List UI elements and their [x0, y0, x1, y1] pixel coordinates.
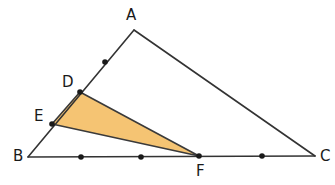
vertex-label-e: E: [34, 109, 43, 124]
geometry-figure: A B C D E F: [0, 0, 335, 185]
point-marker-bc-tick-1: [78, 154, 84, 160]
point-marker-e: [49, 121, 55, 127]
geometry-canvas: [0, 0, 335, 185]
point-marker-bc-tick-2: [138, 154, 144, 160]
vertex-label-d: D: [62, 75, 74, 90]
vertex-label-c: C: [320, 149, 330, 164]
vertex-label-f: F: [196, 164, 205, 179]
point-marker-ab-tick: [102, 59, 108, 65]
segment-bc: [28, 156, 315, 157]
point-marker-d: [77, 89, 83, 95]
vertex-label-b: B: [13, 149, 23, 164]
point-marker-bc-tick-3: [259, 153, 265, 159]
vertex-label-a: A: [126, 8, 136, 23]
point-marker-f: [196, 153, 202, 159]
